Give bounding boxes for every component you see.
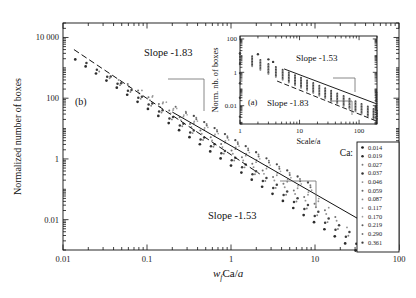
data-point: [278, 168, 280, 170]
inset-plot: 11010010010.01Scale/aNorm. nb. of boxesS…: [211, 35, 378, 146]
data-point: [74, 58, 77, 61]
data-point: [147, 103, 150, 106]
data-point: [261, 185, 264, 188]
data-point: [323, 228, 326, 231]
legend-marker: [361, 172, 364, 175]
data-point: [375, 92, 377, 94]
legend-marker: [362, 199, 364, 201]
data-point: [166, 101, 168, 103]
data-point: [375, 107, 377, 109]
inset-panel-label-a: (a): [248, 98, 258, 107]
legend-title: Ca:: [340, 148, 353, 158]
data-point: [375, 96, 377, 98]
data-point: [189, 123, 191, 125]
data-point: [137, 90, 139, 92]
data-point: [318, 95, 320, 97]
inset-x-tick-label: 1: [238, 127, 242, 135]
series-0.361: [193, 115, 309, 184]
legend-entry-label: 0.087: [368, 195, 382, 202]
data-point: [307, 181, 309, 183]
data-point: [276, 174, 278, 176]
data-point: [105, 79, 108, 82]
data-point: [336, 220, 338, 222]
data-point: [239, 72, 241, 74]
data-point: [327, 221, 329, 223]
legend-marker: [362, 181, 364, 183]
data-point: [84, 65, 87, 68]
inset-y-tick-label: 0.01: [225, 102, 238, 110]
data-point: [267, 58, 269, 60]
data-point: [324, 97, 326, 99]
data-point: [115, 86, 118, 89]
data-point: [140, 98, 142, 100]
legend-marker: [362, 164, 364, 166]
y-tick-label: 1: [55, 154, 59, 164]
data-point: [250, 178, 253, 181]
inset-y-tick-label: 1: [234, 69, 238, 77]
data-point: [276, 184, 279, 187]
legend-marker: [362, 207, 364, 209]
data-point: [273, 180, 275, 182]
data-point: [258, 154, 260, 156]
data-point: [212, 146, 214, 148]
y-tick-label: 0.01: [44, 215, 59, 225]
data-point: [375, 115, 377, 117]
data-point: [285, 194, 287, 196]
data-point: [239, 82, 241, 84]
data-point: [239, 63, 241, 65]
data-point: [197, 120, 199, 122]
data-point: [317, 200, 319, 202]
inset-x-tick-label: 100: [354, 127, 365, 135]
data-point: [318, 198, 320, 200]
data-point: [173, 108, 175, 110]
data-point: [286, 190, 289, 193]
data-point: [268, 160, 270, 162]
inset-background: [240, 36, 378, 125]
legend-entry-label: 0.219: [368, 221, 382, 228]
data-point: [282, 79, 284, 81]
data-point: [276, 163, 278, 165]
data-point: [314, 203, 316, 205]
data-point: [222, 146, 224, 148]
data-point: [238, 145, 240, 147]
data-point: [180, 119, 182, 121]
data-point: [116, 82, 119, 85]
data-point: [178, 129, 181, 132]
data-point: [269, 164, 271, 166]
data-point: [96, 69, 99, 72]
data-point: [206, 123, 208, 125]
data-point: [282, 200, 285, 203]
data-point: [185, 111, 187, 113]
inset-y-tick-label: 100: [227, 35, 238, 43]
x-tick-label: 0.1: [142, 254, 153, 264]
data-point: [294, 84, 296, 86]
data-point: [217, 133, 219, 135]
data-point: [253, 166, 255, 168]
data-point: [150, 105, 152, 107]
legend-entry-label: 0.027: [368, 161, 382, 168]
data-point: [219, 157, 222, 160]
data-point: [346, 226, 348, 228]
data-point: [118, 79, 120, 81]
figure-container: 0.010.111010010 00010010.01Normalized nu…: [0, 0, 416, 298]
data-point: [267, 73, 269, 75]
data-point: [306, 207, 308, 209]
x-axis-label-text: wfCa/a: [213, 267, 244, 282]
data-point: [314, 215, 317, 218]
data-point: [199, 130, 201, 132]
data-point: [109, 75, 112, 78]
data-point: [280, 170, 282, 172]
data-point: [237, 141, 239, 143]
fit-line-solid-fit: [172, 112, 358, 219]
data-point: [333, 235, 336, 238]
data-point: [272, 61, 274, 63]
panel-label-b: (b): [75, 96, 87, 108]
data-point: [234, 139, 236, 141]
data-point: [224, 140, 226, 142]
data-point: [275, 187, 277, 189]
legend-marker: [362, 216, 364, 218]
inset-slope-annotation-183: Slope -1.83: [267, 98, 309, 108]
data-point: [176, 108, 178, 110]
data-point: [168, 110, 170, 112]
data-point: [245, 145, 247, 147]
